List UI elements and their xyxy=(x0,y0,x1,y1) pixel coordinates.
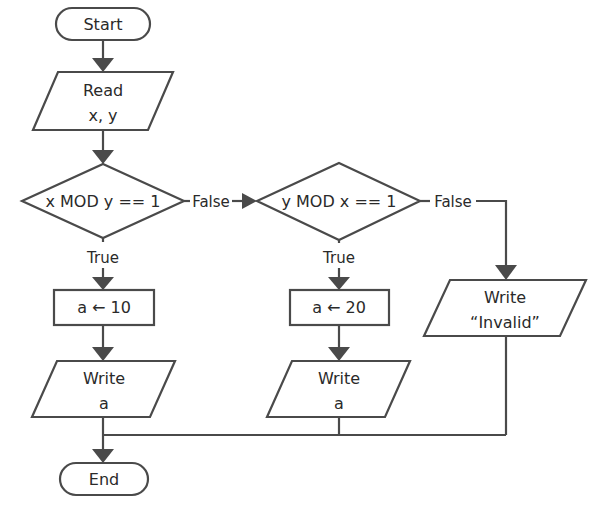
read-vars: x, y xyxy=(88,106,117,125)
end-label: End xyxy=(89,470,119,489)
write1-output-node: Write a xyxy=(32,361,175,417)
arrowhead-icon xyxy=(92,150,114,164)
arrowhead-icon xyxy=(92,347,114,361)
assign2-label: a ← 20 xyxy=(312,298,366,317)
assign2-process: a ← 20 xyxy=(290,290,389,325)
arrowhead-icon xyxy=(92,58,114,72)
arrowhead-icon xyxy=(92,449,114,463)
arrowhead-icon xyxy=(495,265,517,280)
write-invalid-output-node: Write “Invalid” xyxy=(424,280,586,336)
write2-label: Write xyxy=(318,369,360,388)
assign1-process: a ← 10 xyxy=(54,290,154,325)
write-invalid-label: Write xyxy=(484,288,526,307)
decision2-condition: y MOD x == 1 xyxy=(282,192,397,211)
read-input-node: Read x, y xyxy=(33,72,173,130)
arrowhead-icon xyxy=(328,347,350,361)
decision1-condition: x MOD y == 1 xyxy=(46,192,161,211)
assign1-label: a ← 10 xyxy=(77,298,131,317)
flowchart-diagram: Start Read x, y x MOD y == 1 False True … xyxy=(0,0,600,514)
decision1-true-label: True xyxy=(86,249,119,267)
arrowhead-icon xyxy=(92,277,114,290)
write1-label: Write xyxy=(83,369,125,388)
start-terminal: Start xyxy=(56,8,150,40)
decision2-node: y MOD x == 1 xyxy=(257,163,420,240)
read-label: Read xyxy=(83,81,123,100)
write-invalid-message: “Invalid” xyxy=(470,313,540,332)
arrowhead-icon xyxy=(328,277,350,290)
connector-d2-false-b xyxy=(476,201,506,268)
write2-var: a xyxy=(334,394,344,413)
write1-var: a xyxy=(99,394,109,413)
decision1-node: x MOD y == 1 xyxy=(22,164,184,238)
write2-output-node: Write a xyxy=(267,361,410,417)
decision1-false-label: False xyxy=(192,193,230,211)
end-terminal: End xyxy=(60,463,148,495)
decision2-true-label: True xyxy=(322,249,355,267)
start-label: Start xyxy=(83,15,122,34)
decision2-false-label: False xyxy=(434,193,472,211)
